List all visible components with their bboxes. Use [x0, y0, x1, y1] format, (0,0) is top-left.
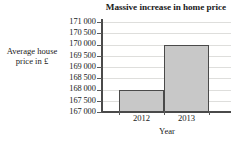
y-axis-tick — [97, 45, 102, 46]
x-axis-tick-label-2012: 2012 — [119, 114, 164, 123]
x-axis-tick — [119, 111, 120, 115]
y-axis-tick-label: 167 500 — [36, 97, 96, 105]
y-axis-tick-label: 170 000 — [36, 40, 96, 48]
y-axis-tick — [97, 101, 102, 102]
y-axis-tick-label: 170 500 — [36, 29, 96, 37]
y-axis-tick-label: 169 500 — [36, 52, 96, 60]
y-axis-tick — [97, 78, 102, 79]
y-axis-tick — [97, 90, 102, 91]
x-axis-tick — [209, 111, 210, 115]
y-axis-tick-label: 171 000 — [36, 18, 96, 26]
y-axis-tick — [97, 56, 102, 57]
y-axis-tick-label: 169 000 — [36, 63, 96, 71]
bar-2013 — [164, 45, 209, 113]
y-axis-tick-label: 168 500 — [36, 74, 96, 82]
gridline — [103, 33, 231, 34]
y-axis-tick — [97, 22, 102, 23]
y-axis-tick-label: 167 000 — [36, 108, 96, 116]
y-axis-tick — [97, 33, 102, 34]
x-axis-tick-label-2013: 2013 — [164, 114, 209, 123]
x-axis-title: Year — [103, 127, 231, 136]
x-axis-tick — [164, 111, 165, 115]
y-axis-tick-label: 168 000 — [36, 85, 96, 93]
y-axis-tick — [97, 112, 102, 113]
y-axis-tick-labels: 171 000170 500170 000169 500169 000168 5… — [36, 0, 96, 143]
bar-2012 — [119, 90, 164, 113]
gridline — [103, 22, 231, 23]
chart-title: Massive increase in home price — [96, 2, 236, 13]
y-axis-tick — [97, 67, 102, 68]
bar-chart-figure: Massive increase in home price Average h… — [0, 0, 236, 143]
